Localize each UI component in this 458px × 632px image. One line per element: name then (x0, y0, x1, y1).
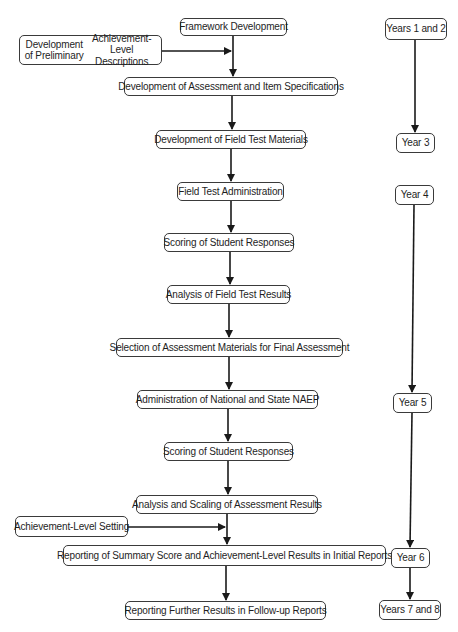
timeline-year-6: Year 6 (391, 548, 430, 568)
prelim-label-line2: Achievement-Level Descriptions (85, 33, 158, 68)
step-achievement-level-setting: Achievement-Level Setting (15, 516, 128, 537)
step-reporting-initial-reports: Reporting of Summary Score and Achieveme… (63, 545, 386, 566)
step-scoring-student-responses-2: Scoring of Student Responses (164, 442, 293, 461)
step-framework-development: Framework Development (180, 18, 287, 36)
timeline-year-3: Year 3 (396, 133, 435, 153)
step-scoring-student-responses-1: Scoring of Student Responses (164, 233, 294, 252)
step-analysis-field-test-results: Analysis of Field Test Results (167, 285, 290, 304)
step-administration-naep: Administration of National and State NAE… (137, 390, 318, 409)
timeline-years-1-and-2: Years 1 and 2 (385, 18, 447, 40)
prelim-label-line1: Development of Preliminary (23, 39, 85, 62)
step-field-test-materials: Development of Field Test Materials (156, 130, 306, 149)
flowchart-diagram: Framework Development Development of Pre… (0, 0, 458, 632)
step-assessment-item-specifications: Development of Assessment and Item Speci… (124, 77, 338, 96)
arrow-y4-to-y5 (412, 205, 414, 392)
step-field-test-administration: Field Test Administration (177, 182, 284, 201)
step-reporting-followup-reports: Reporting Further Results in Follow-up R… (125, 601, 326, 620)
timeline-year-5: Year 5 (393, 393, 432, 413)
step-analysis-scaling-results: Analysis and Scaling of Assessment Resul… (136, 495, 318, 514)
step-preliminary-achievement-level-descriptions: Development of Preliminary Achievement-L… (19, 35, 162, 65)
arrow-y5-to-y6 (410, 413, 412, 547)
timeline-year-4: Year 4 (395, 185, 434, 205)
step-selection-assessment-materials: Selection of Assessment Materials for Fi… (116, 338, 343, 357)
timeline-years-7-and-8: Years 7 and 8 (379, 600, 441, 620)
